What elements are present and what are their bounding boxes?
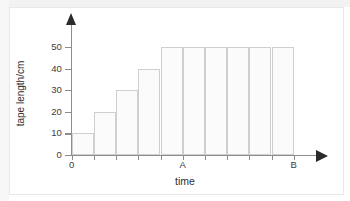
x-tick-3 (138, 155, 139, 160)
bar-9 (249, 47, 271, 155)
x-axis-title: time (135, 175, 235, 187)
bar-8 (227, 47, 249, 155)
y-tick-label-20: 20 (36, 106, 62, 117)
x-tick-7 (227, 155, 228, 160)
y-tick-label-0: 0 (36, 149, 62, 160)
y-tick-label-10: 10 (36, 127, 62, 138)
bar-10 (272, 47, 294, 155)
y-tick-label-40: 40 (36, 63, 62, 74)
x-axis-line (71, 155, 320, 156)
y-tick-40 (65, 69, 71, 70)
x-tick-1 (94, 155, 95, 160)
y-axis-arrow-icon (66, 13, 76, 25)
x-tick-label-A: A (173, 159, 193, 170)
x-tick-8 (249, 155, 250, 160)
y-axis-title: tape length/cm (15, 44, 26, 144)
y-tick-20 (65, 112, 71, 113)
bar-3 (116, 90, 138, 155)
x-tick-4 (161, 155, 162, 160)
bar-7 (205, 47, 227, 155)
y-tick-50 (65, 47, 71, 48)
x-tick-6 (205, 155, 206, 160)
bar-5 (161, 47, 183, 155)
x-tick-9 (272, 155, 273, 160)
x-tick-label-B: B (284, 159, 304, 170)
x-axis-arrow-icon (316, 150, 328, 162)
bar-chart-plot: 01020304050 0AB tape length/cm time (0, 0, 350, 201)
x-tick-2 (116, 155, 117, 160)
y-tick-label-50: 50 (36, 41, 62, 52)
bar-6 (183, 47, 205, 155)
y-tick-label-30: 30 (36, 84, 62, 95)
bar-2 (94, 112, 116, 155)
y-tick-30 (65, 90, 71, 91)
chart-screenshot: 01020304050 0AB tape length/cm time (0, 0, 350, 201)
bar-1 (72, 133, 94, 155)
y-axis-line (71, 24, 72, 156)
x-tick-label-0: 0 (62, 159, 82, 170)
y-tick-10 (65, 133, 71, 134)
bar-4 (138, 69, 160, 155)
